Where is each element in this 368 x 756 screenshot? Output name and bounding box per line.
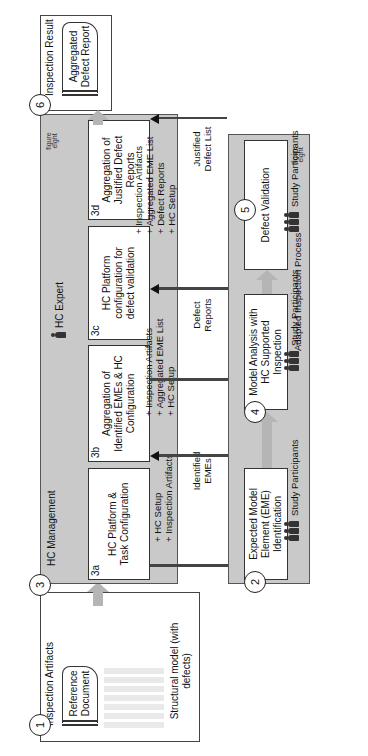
inspection-artifacts-title: Inspection Artifacts (44, 642, 56, 726)
step-2-label: Expected Model Element (EME) Identificat… (248, 469, 284, 579)
justified-defect-list-label: Justified Defect List (182, 122, 222, 176)
structural-model-thumbnail (104, 668, 164, 728)
step-3c-id: 3c (90, 325, 102, 336)
figure-eight-logo: figure eight (46, 130, 58, 152)
flow-arrow-1-to-3 (93, 592, 103, 606)
person-icon (55, 332, 66, 338)
step-circle-4: 4 (244, 401, 266, 423)
flow-list-to-2: + HC Setup + Inspection Artifacts (152, 454, 174, 542)
step-3b-box: 3b Aggregation of Identified EMEs & HC C… (88, 345, 150, 462)
flow-arrow-4-to-5 (262, 280, 272, 294)
step-3d-label: Aggregation of Justified Defect Reports (101, 121, 137, 219)
defect-reports-label: Defect Reports (182, 292, 222, 338)
step-2-actor: Study Participants (288, 439, 302, 541)
reference-document-label: Reference Document (68, 667, 92, 720)
participants-icon (288, 350, 302, 371)
step-3a-id: 3a (90, 565, 102, 576)
step-circle-6: 6 (29, 94, 51, 116)
structural-model-caption: Structural model (with defects) (166, 616, 196, 726)
step-3b-id: 3b (90, 447, 102, 458)
step-3c-box: 3c HC Platform configuration for defect … (88, 226, 150, 340)
arrow-up-icon (150, 284, 159, 294)
inspection-process-diagram: Inspection Artifacts Reference Document … (0, 0, 368, 756)
aggregated-defect-report-label: Aggregated Defect Report (68, 23, 92, 90)
flow-arrow-2-to-4 (262, 422, 272, 468)
flow-list-to-5: + Inspection Artifacts + Aggregated EME … (133, 137, 177, 234)
step-3b-label: Aggregation of Identified EMEs & HC Conf… (101, 346, 137, 461)
participants-icon (288, 211, 302, 232)
arrow-right-icon (256, 270, 278, 280)
arrow-up-icon (150, 114, 159, 124)
connector-3b-to-4 (150, 378, 238, 381)
step-4-label: Model Analysis with HC Supported Inspect… (248, 295, 284, 409)
aggregated-defect-report-document: Aggregated Defect Report (62, 22, 98, 96)
participants-icon (288, 520, 302, 541)
step-3a-box: 3a HC Platform & Task Configuration (88, 468, 150, 580)
step-4-box: Model Analysis with HC Supported Inspect… (244, 294, 288, 410)
step-circle-3: 3 (29, 574, 51, 596)
step-circle-5: 5 (234, 199, 256, 221)
arrow-right-icon (87, 110, 109, 120)
connector-5-to-3d (159, 118, 227, 120)
hc-management-title: HC Management (46, 490, 58, 566)
step-circle-2: 2 (244, 571, 266, 593)
step-4-actor: Study Participants (288, 269, 302, 371)
step-3c-label: HC Platform configuration for defect val… (101, 227, 137, 339)
inspection-result-title: Inspection Result (44, 19, 56, 96)
arrow-up-icon (150, 451, 159, 461)
hc-expert-role: HC Expert (54, 282, 66, 338)
reference-document: Reference Document (62, 666, 98, 726)
flow-list-to-4: + Inspection Artifacts + Aggregated EME … (143, 319, 176, 416)
step-3a-label: HC Platform & Task Configuration (107, 469, 131, 579)
step-3d-id: 3d (90, 205, 102, 216)
step-circle-1: 1 (29, 714, 51, 736)
step-5-label: Defect Validation (260, 168, 272, 243)
step-2-box: Expected Model Element (EME) Identificat… (244, 468, 288, 580)
connector-3a-to-2 (150, 564, 238, 567)
hc-expert-label: HC Expert (54, 282, 66, 328)
step-5-actor: Study Participants (288, 130, 302, 232)
